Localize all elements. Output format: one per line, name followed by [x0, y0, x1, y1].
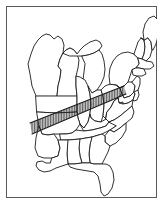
state-florida: [68, 163, 114, 196]
eastern-us-map: [6, 6, 157, 198]
state-mississippi: [67, 139, 82, 164]
state-connecticut-rhode-island: [132, 68, 146, 76]
map-figure: Outline map of the eastern United States…: [0, 0, 163, 204]
